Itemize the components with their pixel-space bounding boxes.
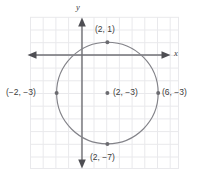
point-left [55, 91, 59, 95]
point-label-left: (−2, −3) [6, 88, 36, 97]
point-right [156, 91, 160, 95]
y-axis-arrow-up [78, 18, 86, 27]
point-center [105, 91, 109, 95]
coordinate-plane-figure: (2, 1) (−2, −3) (2, −3) (6, −3) (2, −7) … [0, 0, 200, 180]
point-label-top: (2, 1) [95, 25, 115, 34]
point-label-right: (6, −3) [162, 88, 187, 97]
y-axis-arrow-down [78, 160, 86, 169]
point-label-bottom: (2, −7) [90, 153, 115, 162]
y-axis-label: y [76, 3, 80, 12]
point-label-center: (2, −3) [113, 88, 138, 97]
x-axis-arrow-left [28, 51, 37, 59]
point-bottom [105, 142, 109, 146]
x-axis-label: x [174, 49, 178, 58]
point-top [105, 40, 109, 44]
x-axis-arrow-right [162, 51, 171, 59]
x-axis [28, 51, 171, 59]
